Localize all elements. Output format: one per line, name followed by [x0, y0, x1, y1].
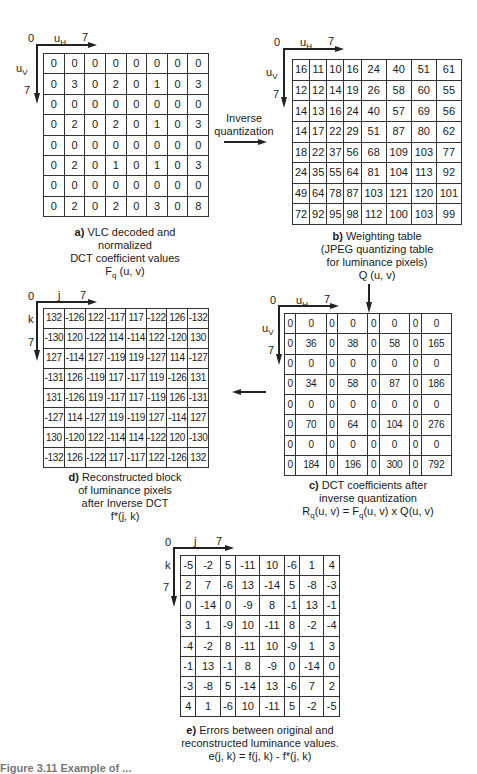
matrix-cell: 98	[344, 204, 361, 225]
matrix-cell: 2	[105, 115, 126, 135]
matrix-cell: 792	[421, 455, 451, 475]
matrix-cell: 13	[310, 101, 327, 122]
matrix-cell: 1	[147, 115, 168, 135]
axis-h-line	[173, 547, 225, 549]
axis-v-label: uV	[266, 66, 277, 81]
matrix-cell: -120	[167, 328, 188, 348]
matrix-cell: 0	[44, 115, 65, 135]
matrix-cell: -9	[236, 596, 260, 616]
matrix-row: 02010103	[44, 155, 209, 175]
caption-b-line2: (JPEG quantizing table	[282, 243, 472, 256]
matrix-cell: 0	[105, 54, 126, 74]
matrix-cell: 51	[411, 60, 436, 81]
matrix-cell: -132	[188, 309, 209, 329]
matrix-cell: 14	[293, 121, 310, 142]
matrix-cell: 1	[147, 74, 168, 94]
matrix-cell: 10	[327, 60, 344, 81]
matrix-cell: 0	[85, 54, 106, 74]
matrix-cell: 2	[181, 576, 196, 596]
matrix-cell: 0	[285, 314, 296, 334]
matrix-cell: 55	[436, 80, 461, 101]
matrix-cell: -126	[167, 448, 188, 468]
matrix-cell: 117	[106, 368, 126, 388]
matrix-cell: 13	[236, 576, 260, 596]
caption-d-line2: of luminance pixels	[30, 484, 220, 497]
matrix-cell: 0	[181, 596, 196, 616]
matrix-cell: 16	[344, 60, 361, 81]
matrix-row: 130-120122-114114-122120-130	[44, 428, 209, 448]
axis-v-line	[36, 301, 38, 351]
matrix-cell: 122	[146, 448, 167, 468]
matrix-cell: -119	[126, 408, 146, 428]
matrix-cell: 13	[196, 656, 220, 676]
matrix-cell: 0	[368, 455, 379, 475]
caption-c-label: c)	[309, 479, 319, 491]
matrix-cell: 7	[300, 676, 324, 696]
matrix-cell: -1	[181, 656, 196, 676]
matrix-cell: 8	[220, 636, 235, 656]
matrix-cell: 81	[361, 163, 386, 184]
matrix-cell: 0	[44, 155, 65, 175]
matrix-row: -3-85-1413-672	[181, 676, 340, 696]
matrix-cell: 0	[167, 135, 188, 155]
matrix-cell: 122	[85, 428, 106, 448]
matrix-cell: 0	[285, 334, 296, 354]
matrix-cell: 8	[236, 656, 260, 676]
matrix-row: 00000000	[285, 314, 452, 334]
matrix-cell: 120	[411, 183, 436, 204]
matrix-cell: 0	[126, 94, 147, 114]
matrix-cell: 0	[126, 176, 147, 196]
matrix-row: 1611101624405161	[293, 60, 462, 81]
arrow-down-icon	[34, 350, 40, 361]
matrix-cell: 68	[361, 142, 386, 163]
matrix-row: -127114-127119-119127-114127	[44, 408, 209, 428]
matrix-cell: -2	[196, 636, 220, 656]
matrix-cell: 0	[285, 354, 296, 374]
matrix-cell: 0	[379, 354, 409, 374]
matrix-cell: -119	[85, 368, 106, 388]
matrix-cell: 117	[106, 448, 126, 468]
matrix-row: 00000000	[44, 54, 209, 74]
matrix-cell: 0	[85, 94, 106, 114]
matrix-cell: 37	[327, 142, 344, 163]
matrix-cell: 12	[293, 80, 310, 101]
matrix-cell: 1	[105, 155, 126, 175]
matrix-cell: -6	[284, 556, 299, 576]
matrix-cell: 184	[296, 455, 326, 475]
matrix-cell: 0	[105, 176, 126, 196]
matrix-row: 127-114127-119119-127114-127	[44, 348, 209, 368]
matrix-cell: 7	[196, 576, 220, 596]
matrix-cell: -117	[106, 309, 126, 329]
matrix-cell: -3	[324, 576, 340, 596]
matrix-cell: -8	[196, 676, 220, 696]
matrix-cell: 0	[368, 374, 379, 394]
matrix-cell: 0	[167, 155, 188, 175]
matrix-c: 0000000003603805801650000000003405808701…	[284, 313, 452, 476]
matrix-cell: 122	[85, 309, 106, 329]
matrix-cell: 0	[326, 415, 337, 435]
matrix-cell: 56	[436, 101, 461, 122]
matrix-cell: 12	[310, 80, 327, 101]
matrix-cell: -3	[181, 676, 196, 696]
matrix-cell: -1	[220, 656, 235, 676]
matrix-cell: 0	[188, 176, 209, 196]
matrix-cell: 131	[44, 388, 65, 408]
matrix-cell: 0	[421, 435, 451, 455]
matrix-cell: 0	[421, 354, 451, 374]
matrix-cell: 0	[126, 115, 147, 135]
axis-v-max: 7	[28, 336, 34, 348]
matrix-cell: 80	[411, 121, 436, 142]
matrix-cell: 5	[284, 576, 299, 596]
matrix-cell: 127	[188, 408, 209, 428]
matrix-cell: 0	[368, 334, 379, 354]
matrix-cell: 22	[310, 142, 327, 163]
matrix-cell: -5	[181, 556, 196, 576]
matrix-cell: 126	[64, 448, 85, 468]
matrix-row: 31-910-118-2-4	[181, 616, 340, 636]
matrix-row: 182237566810910377	[293, 142, 462, 163]
matrix-cell: 0	[296, 395, 326, 415]
matrix-cell: 87	[379, 374, 409, 394]
matrix-cell: 120	[167, 428, 188, 448]
matrix-cell: 3	[147, 196, 168, 216]
matrix-cell: 196	[338, 455, 368, 475]
